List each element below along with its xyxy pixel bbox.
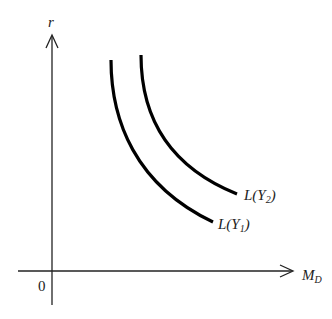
curve-L-Y2-label: L(Y2) xyxy=(243,187,276,205)
x-axis-label: MD xyxy=(301,267,323,285)
money-demand-diagram: r MD 0 L(Y1) L(Y2) xyxy=(0,0,332,319)
y-axis-label: r xyxy=(48,14,54,30)
curve-L-Y2 xyxy=(141,55,237,194)
curve-L-Y1 xyxy=(111,60,213,222)
curve-L-Y1-label: L(Y1) xyxy=(217,216,250,234)
origin-label: 0 xyxy=(38,278,46,294)
